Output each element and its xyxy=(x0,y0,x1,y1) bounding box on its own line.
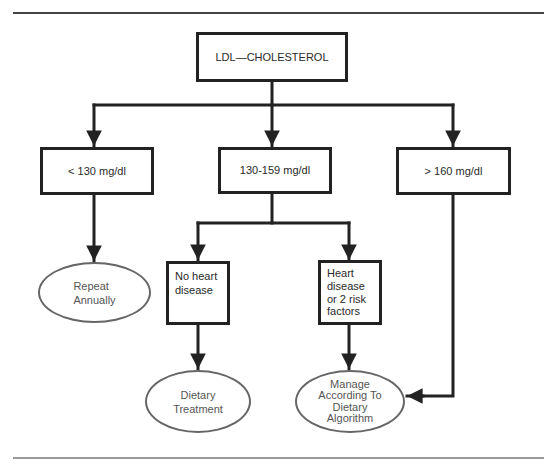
node-label: LDL—CHOLESTEROL xyxy=(215,51,328,64)
node-lt130: < 130 mg/dl xyxy=(40,147,154,195)
flowchart-canvas: LDL—CHOLESTEROL < 130 mg/dl 130-159 mg/d… xyxy=(0,0,544,471)
node-manage-dietary-algorithm: Manage According To Dietary Algorithm xyxy=(295,370,405,433)
node-gt160: > 160 mg/dl xyxy=(396,147,511,195)
node-label: 130-159 mg/dl xyxy=(240,164,310,177)
node-no-heart-disease: No heart disease xyxy=(166,261,230,325)
node-repeat-annually: Repeat Annually xyxy=(38,262,151,323)
gt160-elbow-line xyxy=(423,194,453,396)
node-130-159: 130-159 mg/dl xyxy=(218,147,332,194)
node-dietary-treatment: Dietary Treatment xyxy=(145,370,251,433)
node-label: > 160 mg/dl xyxy=(425,165,483,178)
node-label: No heart disease xyxy=(175,270,217,297)
node-heart-disease: Heart disease or 2 risk factors xyxy=(318,260,382,325)
node-label: Manage According To Dietary Algorithm xyxy=(318,379,381,425)
node-label: Dietary Treatment xyxy=(173,388,223,416)
node-label: < 130 mg/dl xyxy=(68,165,126,178)
node-ldl-cholesterol: LDL—CHOLESTEROL xyxy=(196,32,348,82)
node-label: Repeat Annually xyxy=(73,279,115,307)
node-label: Heart disease or 2 risk factors xyxy=(327,267,366,318)
